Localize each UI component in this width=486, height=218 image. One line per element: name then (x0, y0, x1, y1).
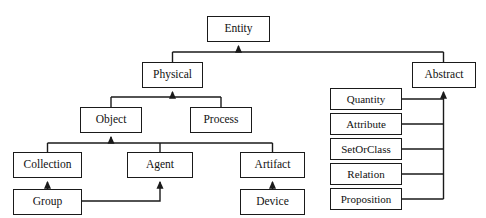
node-abstract: Abstract (412, 62, 476, 88)
node-object: Object (80, 107, 142, 133)
node-label-object: Object (96, 114, 127, 126)
edge-group-object-children (48, 137, 273, 152)
node-setorclass: SetOrClass (330, 138, 402, 160)
edge-group-to-agent (82, 182, 160, 201)
node-proposition: Proposition (330, 188, 402, 210)
node-label-group: Group (33, 196, 62, 208)
node-label-abstract: Abstract (425, 69, 464, 81)
node-label-collection: Collection (24, 159, 72, 171)
node-device: Device (240, 189, 305, 215)
node-label-artifact: Artifact (255, 159, 291, 171)
node-collection: Collection (13, 152, 82, 178)
node-label-setorclass: SetOrClass (341, 144, 391, 155)
node-label-quantity: Quantity (347, 94, 386, 105)
node-physical: Physical (142, 62, 203, 88)
node-label-proposition: Proposition (341, 194, 392, 205)
node-attribute: Attribute (330, 113, 402, 135)
node-group: Group (13, 189, 82, 215)
node-process: Process (190, 107, 252, 133)
edge-group-physical-children (111, 92, 221, 107)
node-label-process: Process (203, 114, 238, 126)
node-quantity: Quantity (330, 88, 402, 110)
node-entity: Entity (207, 16, 270, 42)
node-label-device: Device (256, 196, 289, 208)
node-agent: Agent (127, 152, 193, 178)
node-label-attribute: Attribute (346, 119, 386, 130)
node-label-physical: Physical (153, 69, 192, 81)
ontology-hierarchy-diagram: EntityPhysicalAbstractObjectProcessColle… (0, 0, 486, 218)
edge-group-entity-children (173, 46, 444, 62)
node-artifact: Artifact (240, 152, 305, 178)
node-label-agent: Agent (146, 159, 174, 171)
edge-group-abstract-children (402, 92, 444, 199)
node-label-relation: Relation (347, 169, 384, 180)
node-label-entity: Entity (224, 23, 252, 35)
node-relation: Relation (330, 163, 402, 185)
